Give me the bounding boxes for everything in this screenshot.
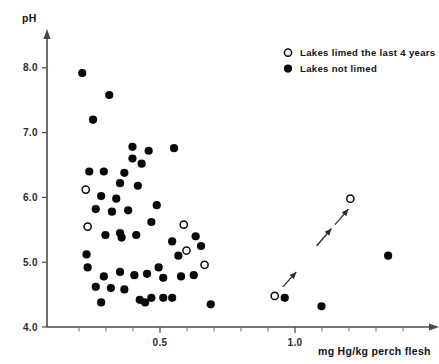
data-point bbox=[170, 144, 178, 152]
series-limed-lakes bbox=[82, 186, 354, 299]
data-point bbox=[100, 167, 108, 175]
data-point bbox=[108, 208, 116, 216]
x-axis-title: mg Hg/kg perch flesh bbox=[318, 345, 431, 357]
y-tick-label-5.0: 5.0 bbox=[23, 257, 38, 268]
legend-label-1: Lakes limed the last 4 years bbox=[300, 47, 435, 58]
data-point bbox=[384, 252, 392, 260]
data-point bbox=[168, 294, 176, 302]
legend-marker-open-circle bbox=[284, 49, 291, 56]
data-point bbox=[145, 147, 153, 155]
data-point bbox=[159, 294, 167, 302]
data-point bbox=[84, 223, 91, 230]
data-point bbox=[120, 285, 128, 293]
data-point bbox=[159, 274, 167, 282]
data-point bbox=[271, 292, 278, 299]
data-point bbox=[82, 186, 89, 193]
data-point bbox=[147, 218, 155, 226]
data-point bbox=[174, 252, 182, 260]
data-point bbox=[100, 272, 108, 280]
data-point bbox=[85, 167, 93, 175]
plot-canvas: 4.05.06.07.08.00.51.0pHmg Hg/kg perch fl… bbox=[0, 0, 439, 364]
data-point bbox=[347, 195, 354, 202]
data-point bbox=[128, 154, 136, 162]
x-tick-label-0.5: 0.5 bbox=[152, 337, 167, 348]
data-point bbox=[105, 91, 113, 99]
data-point bbox=[168, 237, 176, 245]
data-point bbox=[180, 221, 187, 228]
data-point bbox=[97, 298, 105, 306]
data-point bbox=[116, 179, 124, 187]
trend-arrow-1 bbox=[283, 272, 297, 287]
y-tick-label-4.0: 4.0 bbox=[23, 322, 38, 333]
data-point bbox=[92, 205, 100, 213]
data-point bbox=[82, 250, 90, 258]
legend-marker-filled-circle bbox=[284, 65, 292, 73]
data-point bbox=[78, 69, 86, 77]
scatter-plot-figure: 4.05.06.07.08.00.51.0pHmg Hg/kg perch fl… bbox=[0, 0, 439, 364]
data-point bbox=[132, 231, 140, 239]
data-point bbox=[118, 233, 126, 241]
y-tick-label-7.0: 7.0 bbox=[23, 127, 38, 138]
data-point bbox=[107, 284, 115, 292]
data-point bbox=[128, 143, 136, 151]
series-unlimed-lakes bbox=[78, 69, 392, 310]
y-tick-label-8.0: 8.0 bbox=[23, 62, 38, 73]
data-point bbox=[177, 272, 185, 280]
data-point bbox=[89, 116, 97, 124]
data-point bbox=[120, 169, 128, 177]
y-axis-title: pH bbox=[22, 12, 37, 24]
data-point bbox=[201, 261, 208, 268]
data-point bbox=[143, 270, 151, 278]
x-axis-arrowhead bbox=[429, 323, 439, 330]
data-point bbox=[197, 242, 205, 250]
data-point bbox=[183, 247, 190, 254]
data-point bbox=[134, 182, 142, 190]
y-tick-label-6.0: 6.0 bbox=[23, 192, 38, 203]
data-point bbox=[92, 283, 100, 291]
data-point bbox=[141, 298, 149, 306]
legend-label-2: Lakes not limed bbox=[300, 63, 377, 74]
data-point bbox=[138, 160, 146, 168]
data-point bbox=[130, 271, 138, 279]
data-point bbox=[281, 294, 289, 302]
data-point bbox=[153, 201, 161, 209]
data-point bbox=[190, 271, 198, 279]
x-tick-label-1.0: 1.0 bbox=[287, 337, 302, 348]
trend-arrow-3 bbox=[335, 209, 349, 225]
data-point bbox=[207, 300, 215, 308]
trend-arrow-2 bbox=[317, 229, 332, 246]
data-point bbox=[317, 302, 325, 310]
data-point bbox=[84, 263, 92, 271]
data-point bbox=[155, 263, 163, 271]
data-point bbox=[124, 206, 132, 214]
data-point bbox=[192, 232, 200, 240]
y-axis-arrowhead bbox=[43, 29, 50, 39]
data-point bbox=[101, 231, 109, 239]
data-point bbox=[97, 192, 105, 200]
data-point bbox=[116, 268, 124, 276]
data-point bbox=[112, 195, 120, 203]
